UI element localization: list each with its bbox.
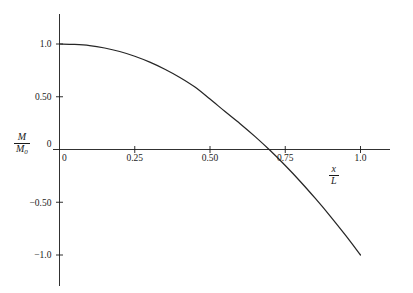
plot-area: 1.00.500−0.50−1.0 00.250.500.751.0 — [0, 0, 413, 293]
x-axis-label: x L — [329, 164, 339, 186]
x-tick-label: 0.75 — [277, 153, 294, 163]
x-tick-label: 1.0 — [355, 153, 367, 163]
y-tick-label: −0.50 — [30, 198, 52, 208]
y-axis-tick-labels: 1.00.500−0.50−1.0 — [30, 39, 52, 260]
y-axis-label: M M0 — [14, 132, 30, 156]
y-axis-label-subscript: 0 — [24, 148, 28, 156]
x-axis-label-denominator: L — [329, 175, 339, 187]
x-tick-label: 0 — [62, 153, 67, 163]
y-tick-label: −1.0 — [34, 250, 51, 260]
x-axis-label-numerator: x — [329, 164, 339, 175]
y-tick-label: 1.0 — [40, 39, 52, 49]
chart-figure: 1.00.500−0.50−1.0 00.250.500.751.0 M M0 … — [0, 0, 413, 293]
x-tick-label: 0.50 — [202, 153, 219, 163]
x-axis-tick-labels: 00.250.500.751.0 — [62, 153, 367, 163]
x-tick-label: 0.25 — [126, 153, 143, 163]
y-axis-label-numerator: M — [14, 132, 30, 143]
y-tick-label: 0 — [47, 139, 52, 149]
y-axis-label-denominator: M0 — [14, 143, 30, 156]
y-tick-label: 0.50 — [35, 92, 52, 102]
